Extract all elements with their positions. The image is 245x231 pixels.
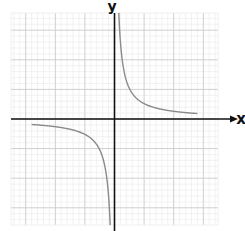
x-axis-label: x	[236, 110, 245, 128]
reciprocal-function-graph: y x	[0, 0, 245, 231]
y-axis-label: y	[107, 0, 116, 14]
